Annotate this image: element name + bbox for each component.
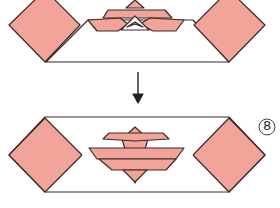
step-number: 8 [263,118,271,133]
down-arrow-icon [133,72,143,103]
step-7-upper-band [103,10,172,18]
step-8-band-lower [99,159,176,170]
step-8-band-top [103,133,169,141]
step-7-figure [9,0,265,62]
origami-diagram [0,0,280,208]
step-8-band-middle [89,148,184,159]
step-7-top-flap [126,0,144,8]
step-8-figure [9,117,265,192]
step-number-badge: 8 [258,118,276,139]
